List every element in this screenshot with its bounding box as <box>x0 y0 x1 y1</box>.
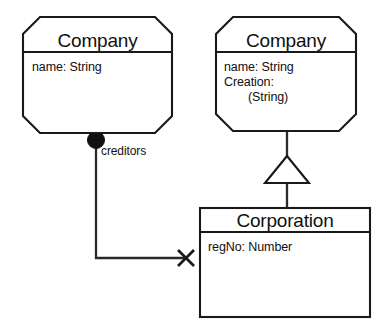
uml-class-diagram: Company name: String Company name: Strin… <box>0 0 391 333</box>
relationship-generalization[interactable] <box>265 131 309 208</box>
company-left-attribute-0: name: String <box>32 60 102 74</box>
diagram-canvas: Company name: String Company name: Strin… <box>0 0 391 333</box>
company-left-title: Company <box>58 30 139 51</box>
class-box-corporation[interactable]: Corporation regNo: Number <box>200 208 370 317</box>
corporation-attribute-0: regNo: Number <box>208 240 292 254</box>
company-right-attribute-1: Creation: <box>224 75 274 89</box>
corporation-title: Corporation <box>236 210 333 231</box>
creditors-role-label: creditors <box>101 144 146 158</box>
company-right-title: Company <box>246 30 327 51</box>
company-right-attribute-0: name: String <box>224 60 294 74</box>
association-line <box>96 141 186 258</box>
class-box-company-left[interactable]: Company name: String <box>23 17 172 133</box>
class-box-company-right[interactable]: Company name: String Creation: (String) <box>216 17 356 131</box>
hollow-triangle-icon <box>265 156 309 183</box>
company-right-attribute-2: (String) <box>248 90 288 104</box>
